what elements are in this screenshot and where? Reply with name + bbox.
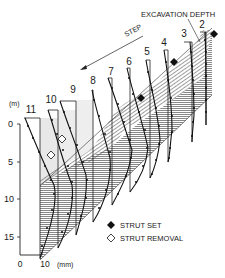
legend: STRUT SET STRUT REMOVAL bbox=[107, 221, 183, 243]
svg-text:STEP: STEP bbox=[123, 23, 143, 38]
y-tick-label: 0 bbox=[8, 119, 13, 129]
strut-set-legend-icon bbox=[107, 221, 115, 229]
depth-axis: (m) 0 5 10 15 bbox=[4, 100, 20, 255]
excavation-depth-label: EXCAVATION DEPTH bbox=[141, 10, 215, 19]
step-label: 9 bbox=[70, 84, 76, 95]
y-unit-label: (m) bbox=[9, 100, 20, 108]
step-label: 5 bbox=[144, 46, 150, 57]
legend-strut-removal-label: STRUT REMOVAL bbox=[120, 234, 183, 243]
y-tick-label: 5 bbox=[8, 157, 13, 167]
step-label: 11 bbox=[26, 104, 37, 115]
step-label: 8 bbox=[90, 75, 96, 86]
x-tick-label: 0 bbox=[18, 259, 23, 269]
step-label: 10 bbox=[45, 94, 57, 105]
step-label: 4 bbox=[161, 37, 167, 48]
x-tick-label: 10 bbox=[40, 259, 50, 269]
step-label: 2 bbox=[199, 19, 205, 30]
legend-strut-set-label: STRUT SET bbox=[120, 221, 162, 230]
step-direction-arrow: STEP bbox=[80, 23, 143, 70]
step-label: 3 bbox=[181, 28, 187, 39]
strut-removal-legend-icon bbox=[107, 234, 115, 242]
step-label: 7 bbox=[108, 66, 114, 77]
y-tick-label: 15 bbox=[4, 232, 14, 242]
wall-deflection-diagram: 11 10 9 8 7 6 5 4 3 2 EXCAVATION DEPTH S… bbox=[0, 0, 225, 278]
step-label: 6 bbox=[126, 56, 132, 67]
y-tick-label: 10 bbox=[4, 194, 14, 204]
excavation-depth-leader bbox=[188, 19, 200, 42]
x-unit-label: (mm) bbox=[57, 261, 73, 269]
